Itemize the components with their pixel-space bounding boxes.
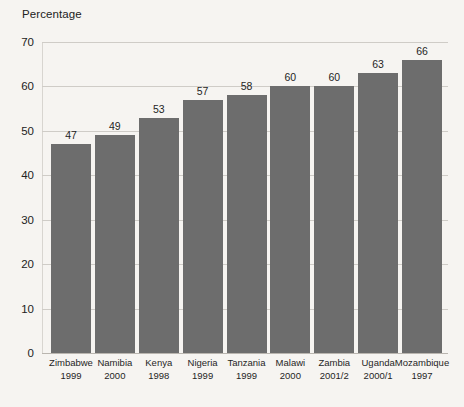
gridline-0 bbox=[42, 353, 448, 354]
y-tick-label-10: 10 bbox=[4, 303, 34, 315]
bar-value-label: 49 bbox=[95, 120, 135, 132]
bar-group[interactable]: 63 bbox=[358, 42, 398, 353]
bar-value-label: 60 bbox=[314, 71, 354, 83]
bar[interactable] bbox=[270, 86, 310, 353]
bar[interactable] bbox=[95, 135, 135, 353]
bar-chart: Percentage 010203040506070 4749535758606… bbox=[0, 0, 464, 407]
y-tick-label-60: 60 bbox=[4, 80, 34, 92]
x-label-year: 1997 bbox=[382, 370, 462, 383]
bar[interactable] bbox=[51, 144, 91, 353]
bar-group[interactable]: 49 bbox=[95, 42, 135, 353]
y-axis-tick-labels: 010203040506070 bbox=[0, 42, 34, 353]
bar-value-label: 57 bbox=[183, 85, 223, 97]
bar[interactable] bbox=[227, 95, 267, 353]
y-tick-label-50: 50 bbox=[4, 125, 34, 137]
bar[interactable] bbox=[314, 86, 354, 353]
bar-group[interactable]: 58 bbox=[227, 42, 267, 353]
x-label-country: Mozambique bbox=[382, 357, 462, 370]
y-tick-label-0: 0 bbox=[4, 347, 34, 359]
plot-area: 474953575860606366 bbox=[42, 42, 448, 353]
y-axis-title: Percentage bbox=[22, 8, 82, 20]
y-tick-label-30: 30 bbox=[4, 214, 34, 226]
bar-group[interactable]: 66 bbox=[402, 42, 442, 353]
bar-value-label: 63 bbox=[358, 58, 398, 70]
x-label: Mozambique1997 bbox=[382, 357, 462, 382]
bar-group[interactable]: 60 bbox=[314, 42, 354, 353]
bar-value-label: 47 bbox=[51, 129, 91, 141]
bar-value-label: 53 bbox=[139, 103, 179, 115]
x-axis-category-labels: Zimbabwe1999Namibia2000Kenya1998Nigeria1… bbox=[42, 357, 448, 393]
bar[interactable] bbox=[139, 118, 179, 353]
bar-value-label: 66 bbox=[402, 45, 442, 57]
bar-group[interactable]: 53 bbox=[139, 42, 179, 353]
bar[interactable] bbox=[402, 60, 442, 353]
bar-value-label: 58 bbox=[227, 80, 267, 92]
bar-group[interactable]: 57 bbox=[183, 42, 223, 353]
bar-value-label: 60 bbox=[270, 71, 310, 83]
y-tick-label-40: 40 bbox=[4, 169, 34, 181]
bar[interactable] bbox=[358, 73, 398, 353]
bar-group[interactable]: 60 bbox=[270, 42, 310, 353]
bar-group[interactable]: 47 bbox=[51, 42, 91, 353]
bar[interactable] bbox=[183, 100, 223, 353]
y-tick-label-20: 20 bbox=[4, 258, 34, 270]
y-tick-label-70: 70 bbox=[4, 36, 34, 48]
